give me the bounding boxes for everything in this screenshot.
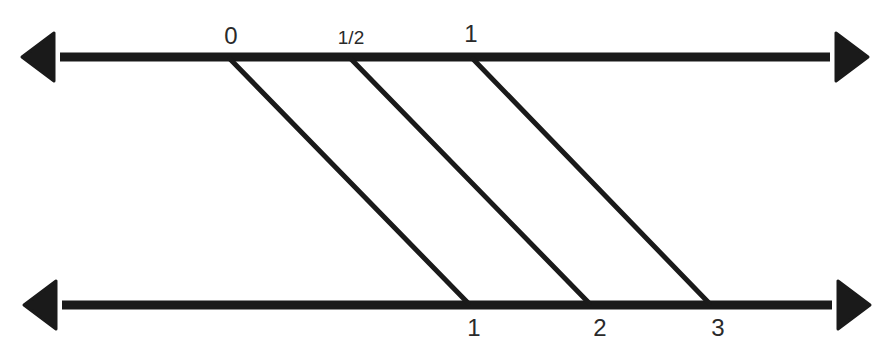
connector-line — [351, 59, 589, 303]
bottom-number-line — [24, 281, 870, 329]
number-line-mapping-diagram: 01/21 123 — [0, 0, 891, 363]
top-tick-label: 1/2 — [338, 27, 364, 48]
bottom-tick-label: 1 — [467, 314, 480, 341]
left-arrowhead-icon — [24, 281, 56, 329]
bottom-line-labels: 123 — [467, 314, 724, 341]
right-arrowhead-icon — [838, 281, 870, 329]
top-number-line — [22, 33, 868, 81]
connector-line — [473, 59, 709, 303]
top-tick-label: 1 — [464, 20, 477, 47]
bottom-tick-label: 2 — [593, 314, 606, 341]
bottom-tick-label: 3 — [711, 314, 724, 341]
left-arrowhead-icon — [22, 33, 54, 81]
top-line-labels: 01/21 — [224, 20, 477, 49]
right-arrowhead-icon — [836, 33, 868, 81]
top-tick-label: 0 — [224, 22, 237, 49]
connector-line — [230, 59, 468, 303]
mapping-connectors — [230, 59, 709, 303]
